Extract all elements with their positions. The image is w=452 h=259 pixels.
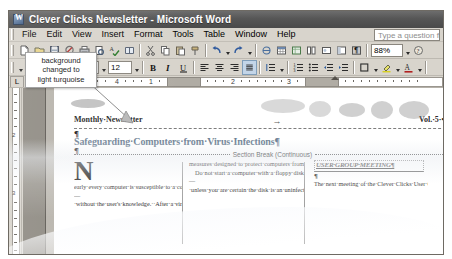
- menu-item-insert[interactable]: Insert: [96, 28, 129, 41]
- bold-icon[interactable]: B: [146, 60, 161, 75]
- style-dropdown-icon[interactable]: [17, 60, 24, 75]
- section-break-line-left: [74, 154, 230, 155]
- toolbar-separator: [193, 61, 195, 74]
- line-spacing-dropdown-icon[interactable]: [278, 60, 285, 75]
- toolbar-separator: [139, 44, 141, 57]
- border-dropdown-icon[interactable]: [372, 60, 379, 75]
- increase-indent-icon[interactable]: [336, 60, 351, 75]
- menu-item-help[interactable]: Help: [272, 28, 301, 41]
- toolbar-separator: [287, 61, 289, 74]
- menu-item-format[interactable]: Format: [129, 28, 168, 41]
- svg-text:3: 3: [294, 69, 296, 73]
- text-column-2[interactable]: measures·designed·to·protect·computers·f…: [186, 160, 304, 254]
- document-columns: N early·every·computer·is·susceptible·to…: [74, 160, 443, 254]
- font-color-dropdown-icon[interactable]: [416, 60, 423, 75]
- menu-item-edit[interactable]: Edit: [42, 28, 68, 41]
- page-left-gap: [54, 88, 64, 254]
- toolbar-separator: [142, 61, 144, 74]
- svg-text:A: A: [110, 46, 115, 52]
- svg-text:¶: ¶: [354, 46, 358, 55]
- header-left-text: Monthly·Newsletter: [74, 115, 142, 124]
- undo-icon[interactable]: [209, 43, 224, 58]
- document-map-icon[interactable]: [334, 43, 349, 58]
- format-painter-icon[interactable]: [188, 43, 203, 58]
- ruler-number-3: 3: [287, 77, 291, 86]
- line-spacing-icon[interactable]: [263, 60, 278, 75]
- column-separator-2: [304, 162, 305, 244]
- drawing-icon[interactable]: [319, 43, 334, 58]
- vertical-ruler-number-3: 3: [12, 190, 15, 196]
- menu-item-window[interactable]: Window: [230, 28, 272, 41]
- vertical-ruler-number-2: 2: [12, 132, 15, 138]
- menu-bar-grip[interactable]: [11, 29, 14, 40]
- formatting-toolbar-grip[interactable]: [11, 62, 14, 73]
- document-page[interactable]: Monthly·Newsletter → Vol.·5·•·Issue·9 ¶ …: [45, 88, 443, 254]
- vertical-ruler[interactable]: 2 3: [9, 88, 22, 254]
- document-header[interactable]: Monthly·Newsletter → Vol.·5·•·Issue·9: [74, 115, 443, 129]
- highlight-icon[interactable]: [379, 60, 394, 75]
- ruler-column-gap-1: [167, 77, 201, 87]
- decrease-indent-icon[interactable]: [321, 60, 336, 75]
- italic-icon[interactable]: I: [161, 60, 176, 75]
- spelling-check-icon[interactable]: A: [107, 43, 122, 58]
- redo-icon[interactable]: [231, 43, 246, 58]
- cut-icon[interactable]: [143, 43, 158, 58]
- align-right-icon[interactable]: [227, 60, 242, 75]
- menu-bar: File Edit View Insert Format Tools Table…: [9, 28, 443, 42]
- show-formatting-marks-icon[interactable]: ¶: [349, 43, 364, 58]
- article-headline: Safeguarding·Computers·from·Virus·Infect…: [74, 136, 280, 147]
- menu-item-view[interactable]: View: [67, 28, 96, 41]
- insert-table-icon[interactable]: [274, 43, 289, 58]
- application-frame: Clever Clicks Newsletter - Microsoft Wor…: [8, 10, 444, 255]
- font-size-combobox[interactable]: 12: [108, 61, 132, 74]
- zoom-dropdown-icon[interactable]: [404, 43, 411, 58]
- column-3-paragraph-1: The·next·meeting·of·the·Clever·Clicks·Us…: [314, 180, 424, 189]
- tab-stop-selector[interactable]: L: [10, 76, 24, 88]
- section-break-marker: Section Break (Continuous): [74, 150, 443, 158]
- copy-icon[interactable]: [158, 43, 173, 58]
- header-right-text: Vol.·5·•·Issue·9: [419, 115, 443, 124]
- column-separator-1: [182, 162, 183, 244]
- menu-item-file[interactable]: File: [17, 28, 42, 41]
- help-icon[interactable]: ?: [411, 43, 426, 58]
- justify-icon[interactable]: [242, 60, 257, 75]
- paste-icon[interactable]: [173, 43, 188, 58]
- vertical-ruler-track: [12, 88, 20, 254]
- align-left-icon[interactable]: [197, 60, 212, 75]
- window-title: Clever Clicks Newsletter - Microsoft Wor…: [29, 14, 231, 25]
- insert-hyperlink-icon[interactable]: [259, 43, 274, 58]
- font-color-icon[interactable]: A: [401, 60, 416, 75]
- menu-item-tools[interactable]: Tools: [167, 28, 198, 41]
- font-size-dropdown-icon[interactable]: [133, 60, 140, 75]
- redo-dropdown-icon[interactable]: [246, 43, 253, 58]
- bulleted-list-icon[interactable]: [306, 60, 321, 75]
- toolbar-separator: [205, 44, 207, 57]
- svg-text:U: U: [180, 62, 186, 72]
- text-column-1[interactable]: N early·every·computer·is·susceptible·to…: [74, 160, 182, 254]
- highlight-dropdown-icon[interactable]: [394, 60, 401, 75]
- svg-text:I: I: [165, 63, 170, 73]
- outside-border-icon[interactable]: [357, 60, 372, 75]
- text-column-3[interactable]: USER·GROUP·MEETING¶ ¶ The·next·meeting·o…: [308, 160, 428, 254]
- callout-line-3: light turquoise: [38, 75, 85, 85]
- menu-item-table[interactable]: Table: [198, 28, 230, 41]
- toolbar-separator: [255, 44, 257, 57]
- insert-excel-table-icon[interactable]: [289, 43, 304, 58]
- columns-icon[interactable]: [304, 43, 319, 58]
- research-icon[interactable]: [122, 43, 137, 58]
- font-name-dropdown-icon[interactable]: [100, 60, 107, 75]
- align-center-icon[interactable]: [212, 60, 227, 75]
- drop-cap: N: [74, 160, 94, 183]
- numbered-list-icon[interactable]: 123: [291, 60, 306, 75]
- underline-icon[interactable]: U: [176, 60, 191, 75]
- standard-toolbar-grip[interactable]: [11, 45, 14, 56]
- toolbar-separator: [425, 61, 427, 74]
- callout-line-2: changed to: [42, 65, 79, 75]
- right-indent-marker[interactable]: [331, 76, 339, 80]
- section-break-label: Section Break (Continuous): [230, 151, 316, 158]
- undo-dropdown-icon[interactable]: [224, 43, 231, 58]
- zoom-combobox[interactable]: 88%: [371, 44, 403, 57]
- svg-text:B: B: [150, 63, 156, 73]
- ask-a-question-input[interactable]: Type a question for help: [374, 29, 440, 41]
- ruler-number-2: 2: [231, 77, 235, 86]
